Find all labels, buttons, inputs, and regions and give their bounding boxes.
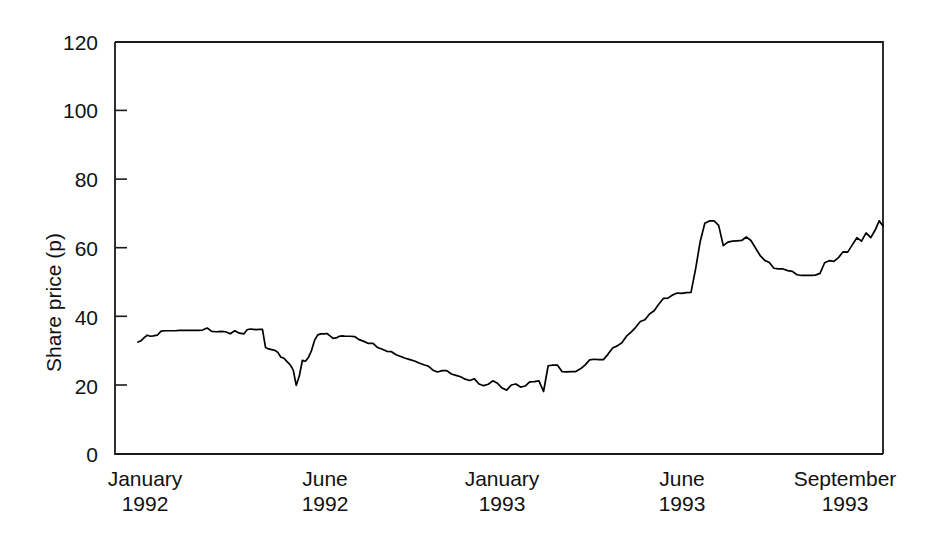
x-tick-year: 1992 bbox=[108, 491, 183, 516]
x-tick-month: January bbox=[108, 466, 183, 491]
x-tick-label-september-1993: September 1993 bbox=[794, 466, 897, 516]
y-axis-ticks bbox=[115, 110, 127, 385]
x-tick-label-june-1992: June 1992 bbox=[302, 466, 349, 516]
chart-figure: Share price (p) 120 100 80 60 40 20 0 Ja… bbox=[0, 0, 934, 546]
y-tick-label-60: 60 bbox=[38, 237, 98, 261]
x-tick-label-january-1992: January 1992 bbox=[108, 466, 183, 516]
plot-area bbox=[0, 0, 934, 546]
data-series-line bbox=[138, 221, 883, 392]
x-tick-month: September bbox=[794, 466, 897, 491]
x-tick-year: 1993 bbox=[794, 491, 897, 516]
x-tick-year: 1993 bbox=[659, 491, 706, 516]
x-tick-label-june-1993: June 1993 bbox=[659, 466, 706, 516]
x-tick-year: 1993 bbox=[465, 491, 540, 516]
x-tick-month: June bbox=[302, 466, 349, 491]
axis-lines bbox=[115, 42, 883, 454]
y-tick-label-80: 80 bbox=[38, 168, 98, 192]
x-tick-label-january-1993: January 1993 bbox=[465, 466, 540, 516]
y-tick-label-20: 20 bbox=[38, 375, 98, 399]
y-tick-label-0: 0 bbox=[38, 443, 98, 467]
x-tick-month: June bbox=[659, 466, 706, 491]
x-tick-month: January bbox=[465, 466, 540, 491]
y-tick-label-40: 40 bbox=[38, 306, 98, 330]
y-tick-label-120: 120 bbox=[38, 31, 98, 55]
y-tick-label-100: 100 bbox=[38, 99, 98, 123]
x-tick-year: 1992 bbox=[302, 491, 349, 516]
